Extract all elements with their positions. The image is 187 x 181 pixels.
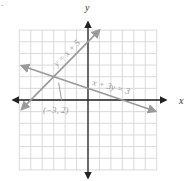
y-axis-label: y (84, 2, 90, 13)
x-axis-label: x (178, 95, 184, 106)
axes (13, 22, 166, 178)
coordinate-plane: xyy = x + 5x + 3y = 3(−3, 2). (0, 0, 187, 181)
intersection-label: (−3, 2) (43, 105, 69, 115)
problem-marker: . (1, 0, 3, 8)
intersection-pointer (59, 83, 62, 101)
